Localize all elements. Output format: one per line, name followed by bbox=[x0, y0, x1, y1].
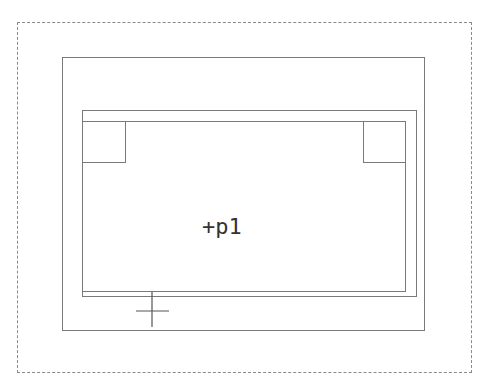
crosshair-icon bbox=[0, 0, 485, 382]
